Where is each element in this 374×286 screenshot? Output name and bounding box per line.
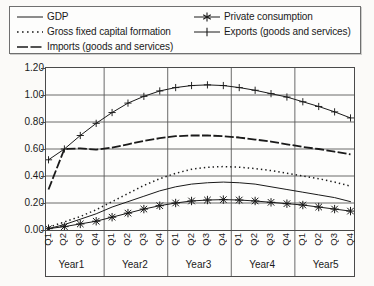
y-tick-label: 0.60: [4, 144, 44, 154]
legend-item-private-consumption: Private consumption: [193, 10, 351, 24]
x-quarter-label: Q4: [281, 233, 290, 246]
x-year-group-label: Year2: [105, 259, 165, 270]
legend-label-gfcf: Gross fixed capital formation: [47, 26, 171, 38]
x-quarter-label: Q1: [233, 233, 242, 246]
legend-label-imports: Imports (goods and services): [47, 41, 173, 53]
y-tick-label: 1.00: [4, 90, 44, 100]
y-tick-label: 0.20: [4, 198, 44, 208]
x-year-group-label: Year3: [169, 259, 229, 270]
x-quarter-label: Q4: [345, 233, 354, 246]
x-quarter-label: Q4: [217, 233, 226, 246]
x-quarter-label: Q4: [154, 233, 163, 246]
x-quarter-label: Q4: [90, 233, 99, 246]
series-line-2: [49, 136, 351, 190]
x-quarter-label: Q2: [249, 233, 258, 246]
legend-marker-plus-icon: [193, 26, 221, 38]
y-tick-label: 0.80: [4, 117, 44, 127]
legend-label-exports: Exports (goods and services): [224, 26, 351, 38]
plot-area: [45, 67, 355, 231]
y-tick-label: 1.20: [4, 63, 44, 73]
plot-svg: [46, 68, 354, 230]
x-quarter-label: Q2: [186, 233, 195, 246]
chart-container: GDP Gross fixed capital formation Import…: [0, 0, 374, 286]
legend-label-private-consumption: Private consumption: [224, 11, 313, 23]
x-quarter-label: Q3: [138, 233, 147, 246]
chart-legend: GDP Gross fixed capital formation Import…: [9, 6, 361, 54]
x-quarter-label: Q3: [74, 233, 83, 246]
y-tick-label: 0.40: [4, 171, 44, 181]
x-quarter-label: Q1: [43, 233, 52, 246]
x-quarter-label: Q1: [297, 233, 306, 246]
x-quarter-label: Q1: [170, 233, 179, 246]
x-quarter-label: Q3: [265, 233, 274, 246]
x-year-group-label: Year1: [41, 259, 101, 270]
y-axis-tick-labels: 1.201.000.800.600.400.200.00: [0, 0, 44, 286]
x-year-group-label: Year5: [296, 259, 356, 270]
legend-marker-asterisk-icon: [193, 11, 221, 23]
x-quarter-label: Q2: [122, 233, 131, 246]
x-quarter-label: Q1: [106, 233, 115, 246]
x-quarter-label: Q2: [313, 233, 322, 246]
legend-column-right: Private consumption Exports (goods and s…: [193, 10, 351, 40]
legend-label-gdp: GDP: [47, 11, 68, 23]
legend-item-exports: Exports (goods and services): [193, 25, 351, 39]
y-tick-label: 0.00: [4, 225, 44, 235]
x-quarter-label: Q3: [329, 233, 338, 246]
x-quarter-label: Q3: [201, 233, 210, 246]
x-quarter-label: Q2: [58, 233, 67, 246]
x-year-group-label: Year4: [232, 259, 292, 270]
